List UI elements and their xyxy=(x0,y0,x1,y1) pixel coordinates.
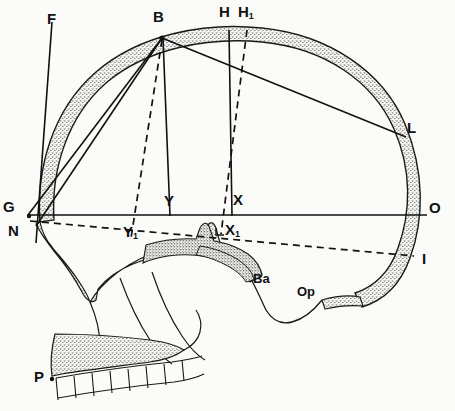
label-Y1: Y1 xyxy=(123,224,138,239)
line-B-Y1 xyxy=(131,40,162,238)
label-G: G xyxy=(3,199,15,214)
label-B: B xyxy=(153,9,164,24)
label-H1: H1 xyxy=(238,4,254,19)
label-Op: Op xyxy=(297,285,315,298)
skull-drawing xyxy=(0,0,455,411)
label-Ba: Ba xyxy=(253,272,270,285)
dot-G xyxy=(27,214,31,218)
label-O: O xyxy=(429,200,441,215)
label-F: F xyxy=(47,11,56,26)
label-L: L xyxy=(407,120,416,135)
dot-P xyxy=(50,377,54,381)
facial-skeleton xyxy=(36,222,363,400)
occipital-tail-bone xyxy=(322,296,363,309)
line-H-X xyxy=(229,30,232,216)
label-P: P xyxy=(34,369,44,384)
craniometric-figure: F B H H1 L G N Y Y1 X X1 O I Ba Op P xyxy=(0,0,455,411)
label-X1: X1 xyxy=(225,222,240,237)
label-Y: Y xyxy=(164,193,174,208)
label-I: I xyxy=(422,251,426,266)
label-H: H xyxy=(219,4,230,19)
dot-B xyxy=(159,35,164,40)
line-B-Y xyxy=(163,38,170,216)
label-N: N xyxy=(8,223,19,238)
line-G-B xyxy=(28,38,162,215)
label-X: X xyxy=(233,192,243,207)
pterygoid-notch xyxy=(184,310,201,350)
